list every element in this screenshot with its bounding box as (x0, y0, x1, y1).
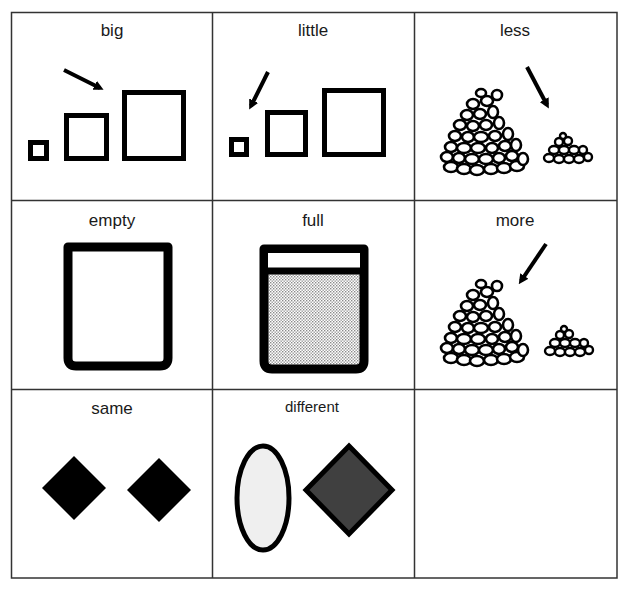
label-empty: empty (89, 212, 135, 229)
grid-artwork (0, 0, 624, 589)
label-less: less (500, 22, 530, 39)
picture-card-grid: big little less empty full more same dif… (0, 0, 624, 589)
more-picture (441, 244, 593, 366)
label-full: full (302, 212, 324, 229)
big-picture (31, 70, 184, 159)
full-picture (264, 249, 364, 369)
empty-picture (68, 247, 168, 366)
different-picture (237, 446, 392, 550)
label-little: little (298, 22, 328, 39)
little-picture (232, 72, 384, 155)
label-same: same (91, 400, 133, 417)
label-big: big (101, 22, 124, 39)
same-picture (42, 456, 191, 522)
label-more: more (496, 212, 535, 229)
less-picture (441, 67, 592, 175)
label-different: different (285, 399, 339, 414)
